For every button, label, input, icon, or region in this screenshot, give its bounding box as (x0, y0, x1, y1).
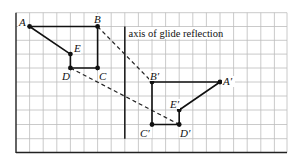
glide-reflection-diagram: axis of glide reflection A B E D C B′ (0, 0, 308, 160)
label-D-prime: D′ (179, 127, 191, 139)
label-A-prime: A′ (222, 75, 233, 87)
original-figure (30, 27, 98, 69)
point-C-prime (150, 122, 155, 127)
label-B-prime: B′ (150, 70, 160, 82)
label-D: D (61, 70, 70, 82)
point-E (68, 52, 73, 57)
label-A: A (18, 16, 26, 28)
label-C: C (99, 70, 107, 82)
label-E: E (73, 42, 81, 54)
label-B: B (94, 13, 101, 25)
point-A (27, 24, 32, 29)
label-E-prime: E′ (169, 98, 180, 110)
label-C-prime: C′ (140, 127, 150, 139)
point-A-prime (218, 80, 223, 85)
axis-label: axis of glide reflection (129, 28, 225, 39)
image-figure (152, 82, 220, 125)
